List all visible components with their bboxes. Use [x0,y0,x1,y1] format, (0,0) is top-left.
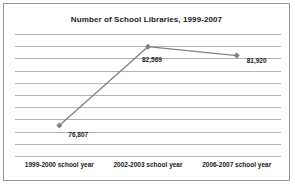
category-label-0: 1999-2000 school year [15,161,104,168]
line-series [15,34,281,157]
category-label-2: 2006-2007 school year [192,161,281,168]
data-point-label: 81,920 [247,57,267,64]
data-point-label: 76,807 [68,131,88,138]
chart-frame: Number of School Libraries, 1999-2007 76… [3,3,290,181]
chart-title: Number of School Libraries, 1999-2007 [4,15,289,24]
category-label-1: 2002-2003 school year [104,161,193,168]
category-axis: 1999-2000 school year2002-2003 school ye… [15,161,281,168]
data-point-marker [234,53,240,59]
plot-area [15,34,281,157]
data-point-label: 82,569 [142,56,162,63]
